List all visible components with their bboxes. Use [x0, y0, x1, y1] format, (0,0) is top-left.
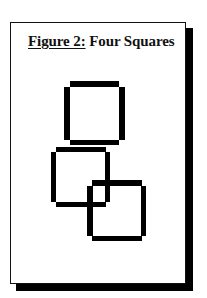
square-top-edge-top [70, 81, 119, 87]
square-middle-edge-bottom [56, 202, 106, 207]
square-bottom-edge-right [141, 186, 146, 236]
figure-label: Figure 2: [28, 33, 86, 49]
square-middle-edge-left [51, 152, 56, 202]
square-middle-edge-right [105, 152, 110, 202]
square-bottom-edge-bottom [92, 236, 142, 241]
square-top-edge-bottom [70, 140, 119, 145]
square-top-edge-right [119, 87, 125, 140]
square-bottom-edge-left [87, 186, 93, 236]
square-middle-edge-top [56, 147, 106, 152]
figure-title: Figure 2: Four Squares [28, 32, 175, 50]
square-bottom-edge-top [92, 180, 142, 186]
square-top-edge-left [64, 87, 70, 140]
figure-title-text: Four Squares [89, 33, 174, 49]
figure-frame [10, 22, 186, 284]
